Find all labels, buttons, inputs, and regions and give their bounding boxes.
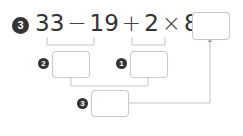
problem-number-badge: 3 [12,17,29,34]
step-2-badge: 2 [38,58,49,69]
step-1-badge: 1 [116,58,127,69]
step-3-box[interactable] [91,90,129,117]
step-1-number: 1 [119,60,123,68]
term-19: 19 [90,10,119,36]
step-3-badge: 3 [77,98,88,109]
term-33: 33 [35,10,64,36]
answer-box[interactable] [192,12,230,40]
minus-sign: − [67,10,86,36]
term-2: 2 [144,10,159,36]
times-sign: × [162,10,181,36]
step-3-number: 3 [80,100,84,108]
step-2-number: 2 [41,60,45,68]
problem-number: 3 [17,20,23,31]
step-1-box[interactable] [130,51,168,78]
plus-sign: + [122,10,141,36]
step-2-box[interactable] [52,51,90,78]
